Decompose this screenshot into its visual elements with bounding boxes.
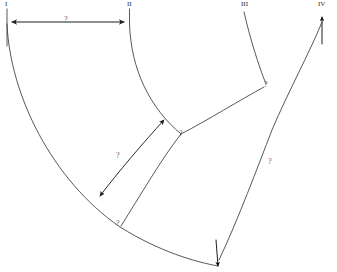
arrow-bottom-down — [216, 240, 218, 266]
node-label-III: III — [241, 1, 248, 8]
annotation-upper-right-junction: ? — [264, 81, 268, 89]
annotation-span-I-II: ? — [64, 16, 68, 24]
connector-center-to-upper-right — [181, 87, 264, 134]
annotation-bottom-left-junction: ? — [116, 220, 120, 228]
node-label-IV: IV — [318, 1, 325, 8]
annotation-center-junction: ? — [179, 130, 183, 138]
diagram-svg — [0, 0, 337, 272]
worldline-II-upper — [130, 24, 182, 134]
node-label-II: II — [127, 1, 132, 8]
double-arrow-curve-left — [100, 120, 164, 196]
worldline-III — [244, 12, 266, 84]
annotation-left-double-arrow: ? — [116, 152, 120, 160]
node-label-I: I — [5, 1, 7, 8]
worldline-II-lower — [121, 134, 181, 226]
figure-canvas: I II III IV ? ? ? ? ? ? — [0, 0, 337, 272]
worldline-IV — [219, 22, 322, 260]
annotation-lower-right-curve: ? — [268, 158, 272, 166]
worldline-I — [7, 24, 218, 266]
